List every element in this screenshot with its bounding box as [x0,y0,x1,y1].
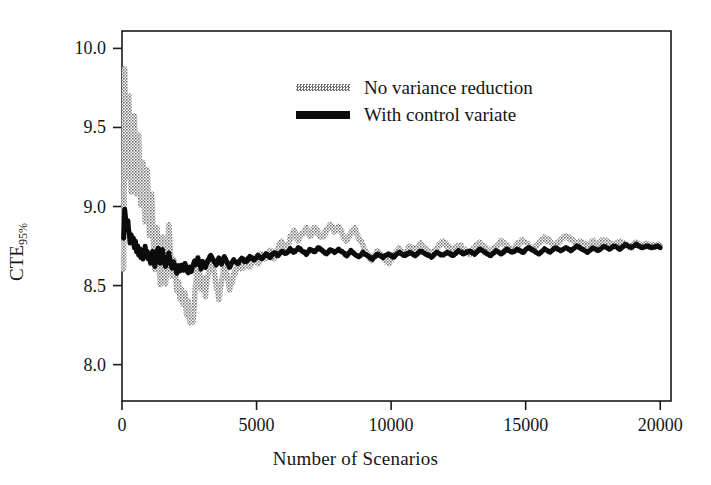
y-axis-title-main: CTE [6,245,27,281]
y-tick-label: 10.0 [75,38,107,59]
x-tick-label: 10000 [369,415,414,436]
x-tick-label: 20000 [638,415,683,436]
legend-swatch-black-solid-line [296,111,350,119]
y-axis-title-sub: 95% [16,223,30,245]
legend-item-with-control-variate: With control variate [296,101,626,128]
chart-canvas [0,0,711,485]
chart-legend: No variance reduction With control varia… [296,74,626,128]
legend-item-no-variance-reduction: No variance reduction [296,74,626,101]
x-tick-label: 5000 [239,415,275,436]
y-tick-label: 8.0 [84,354,107,375]
legend-label-with-control-variate: With control variate [364,104,516,126]
y-axis-title: CTE95% [6,182,28,322]
legend-label-no-variance-reduction: No variance reduction [364,77,533,99]
chart-figure: 8.08.59.09.510.0 05000100001500020000 CT… [0,0,711,485]
legend-swatch-gray-dotted-line [296,84,350,91]
x-tick-label: 0 [118,415,127,436]
y-tick-label: 9.5 [84,117,107,138]
x-tick-label: 15000 [503,415,548,436]
x-axis-title: Number of Scenarios [0,448,711,470]
y-tick-label: 9.0 [84,196,107,217]
y-tick-label: 8.5 [84,275,107,296]
